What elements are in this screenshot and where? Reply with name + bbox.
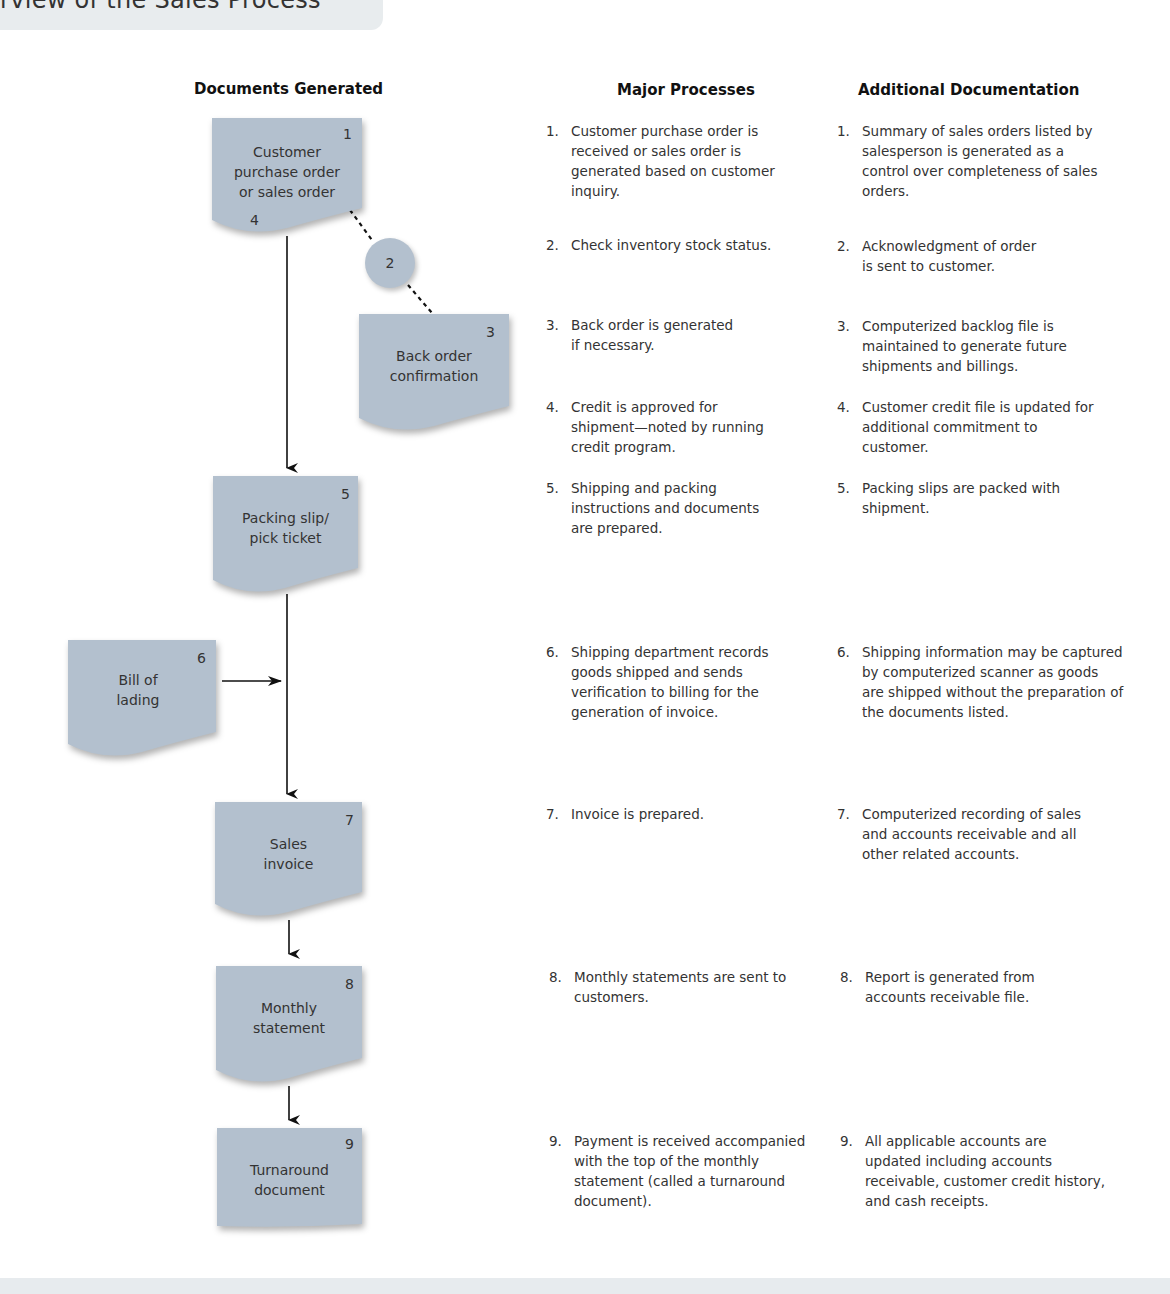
document-label: Customer purchase order or sales order [212,142,362,202]
additional-item-9: 9.All applicable accounts are updated in… [840,1131,1140,1211]
additional-item-7: 7.Computerized recording of sales and ac… [837,804,1137,864]
document-customer-purchase-order: 1 Customer purchase order or sales order… [212,118,362,240]
document-number: 6 [197,650,206,666]
additional-item-4: 4.Customer credit file is updated for ad… [837,397,1137,457]
document-number: 7 [345,812,354,828]
document-label: Turnaround document [217,1160,362,1200]
additional-item-3: 3.Computerized backlog file is maintaine… [837,316,1137,376]
document-label: Sales invoice [215,834,362,874]
document-turnaround: 9 Turnaround document [217,1128,362,1232]
process-circle-check-inventory: 2 [365,238,415,288]
footer-band [0,1278,1170,1294]
additional-item-1: 1.Summary of sales orders listed by sale… [837,121,1137,201]
document-process-ref: 4 [250,212,259,228]
process-item-3: 3.Back order is generated if necessary. [546,315,806,355]
document-number: 1 [343,126,352,142]
process-item-5: 5.Shipping and packing instructions and … [546,478,806,538]
additional-item-5: 5.Packing slips are packed with shipment… [837,478,1137,518]
document-label: Monthly statement [216,998,362,1038]
process-item-4: 4.Credit is approved for shipment—noted … [546,397,806,457]
process-item-1: 1.Customer purchase order is received or… [546,121,806,201]
document-back-order-confirmation: 3 Back order confirmation [359,314,509,438]
additional-item-2: 2.Acknowledgment of order is sent to cus… [837,236,1137,276]
process-item-9: 9.Payment is received accompanied with t… [549,1131,819,1211]
additional-item-8: 8.Report is generated from accounts rece… [840,967,1140,1007]
document-number: 8 [345,976,354,992]
document-number: 5 [341,486,350,502]
process-item-2: 2.Check inventory stock status. [546,235,806,255]
process-item-6: 6.Shipping department records goods ship… [546,642,806,722]
document-label: Packing slip/ pick ticket [213,508,358,548]
document-number: 3 [486,324,495,340]
process-item-7: 7.Invoice is prepared. [546,804,806,824]
document-packing-slip: 5 Packing slip/ pick ticket [213,476,358,600]
process-item-8: 8.Monthly statements are sent to custome… [549,967,809,1007]
document-number: 9 [345,1136,354,1152]
document-sales-invoice: 7 Sales invoice [215,802,362,924]
document-label: Back order confirmation [359,346,509,386]
document-monthly-statement: 8 Monthly statement [216,966,362,1090]
document-label: Bill of lading [68,670,208,710]
document-bill-of-lading: 6 Bill of lading [68,640,216,764]
additional-item-6: 6.Shipping information may be captured b… [837,642,1157,722]
